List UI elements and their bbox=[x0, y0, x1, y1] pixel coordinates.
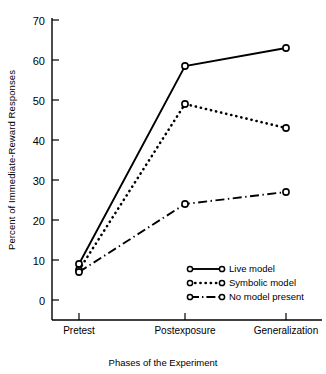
series-no-model-present-point-postexposure bbox=[182, 201, 188, 207]
chart-plot-area bbox=[0, 0, 326, 374]
series-live-model-line bbox=[79, 48, 286, 264]
series-symbolic-model-point-postexposure bbox=[182, 101, 188, 107]
legend-label-live-model: Live model bbox=[229, 264, 275, 274]
legend-swatch-live-model bbox=[187, 266, 224, 271]
legend-swatch-no-model-present bbox=[187, 294, 224, 299]
legend-label-symbolic-model: Symbolic model bbox=[229, 278, 296, 288]
x-category-label-pretest: Pretest bbox=[43, 326, 115, 336]
chart-figure: Percent of Immediate-Reward Responses 70… bbox=[0, 0, 326, 374]
x-category-label-generalization: Generalization bbox=[238, 326, 326, 336]
series-symbolic-model-line bbox=[79, 104, 286, 270]
series-live-model-point-postexposure bbox=[182, 63, 188, 69]
x-category-label-postexposure: Postexposure bbox=[140, 326, 230, 336]
legend-label-no-model-present: No model present bbox=[229, 292, 304, 302]
x-axis-title: Phases of the Experiment bbox=[0, 358, 326, 368]
series-no-model-present-point-pretest bbox=[76, 269, 82, 275]
legend-swatch-symbolic-model bbox=[187, 280, 224, 285]
series-symbolic-model-point-generalization bbox=[283, 125, 289, 131]
series-live-model-point-generalization bbox=[283, 45, 289, 51]
series-no-model-present-point-generalization bbox=[283, 189, 289, 195]
